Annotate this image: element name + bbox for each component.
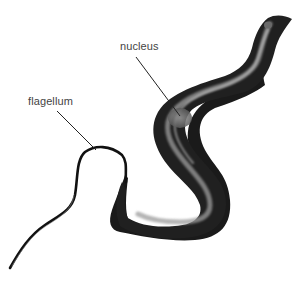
nucleus-shape xyxy=(168,108,192,128)
flagellum-highlight xyxy=(12,196,74,266)
flagellum-shape xyxy=(10,147,126,268)
flagellum-leader-line xyxy=(57,111,96,150)
trypanosome-diagram: nucleus flagellum xyxy=(0,0,300,281)
flagellum-label: flagellum xyxy=(28,95,73,107)
nucleus-label: nucleus xyxy=(120,40,159,52)
nucleus-leader-line xyxy=(136,57,180,116)
head-spot xyxy=(264,22,272,29)
